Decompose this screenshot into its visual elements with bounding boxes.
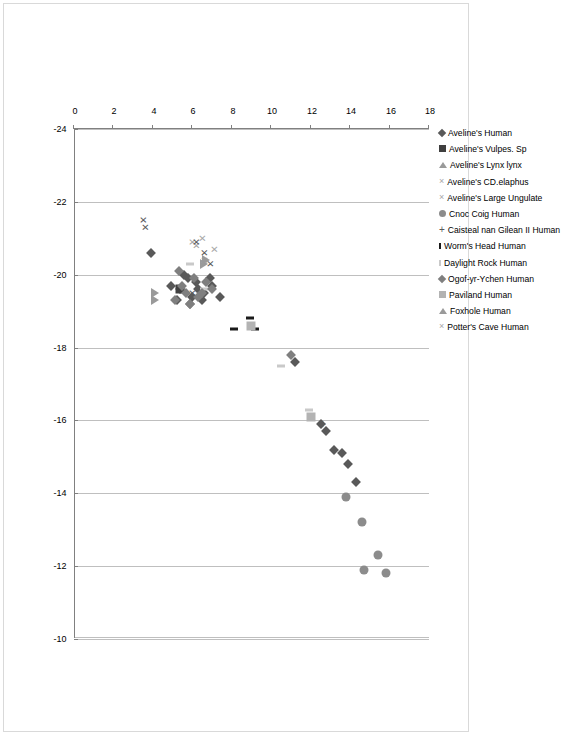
legend-item-label: Daylight Rock Human [444,257,527,267]
legend-marker-x-icon: × [439,323,444,330]
y-axis-tick [349,125,350,129]
legend-item[interactable]: ×Potter's Cave Human [439,322,529,332]
y-tick-label: 10 [263,106,281,116]
x-axis-tick [74,274,78,275]
legend-marker-square-dark-icon [439,145,446,152]
legend-item[interactable]: ×Aveline's Large Ungulate [439,192,542,202]
x-tick-label: -16 [50,415,70,425]
legend-marker-square-light-icon [439,291,446,298]
x-tick-label: -12 [50,561,70,571]
y-axis-tick [428,125,429,129]
data-point [165,280,175,290]
y-tick-label: 16 [381,106,399,116]
legend-marker-plus-icon: + [439,226,445,233]
x-axis-tick [74,493,78,494]
legend-item-label: Aveline's CD.elaphus [447,176,528,186]
data-point [341,492,350,501]
legend-marker-triangle-icon [439,162,447,168]
y-axis-tick [388,125,389,129]
legend-item-label: Foxhole Human [450,306,511,316]
gridline [75,566,429,567]
x-axis-tick [74,566,78,567]
legend-item[interactable]: Aveline's Human [439,128,512,138]
data-point [359,565,368,574]
x-axis-tick [74,420,78,421]
legend-item[interactable]: Paviland Human [439,290,512,300]
data-point [357,517,366,526]
data-point [373,550,382,559]
data-point: × [188,289,196,296]
y-axis-tick [270,125,271,129]
chart-legend: Aveline's HumanAveline's Vulpes. SpAveli… [437,128,565,638]
data-point [186,262,194,265]
data-point: × [139,216,147,223]
legend-marker-x-icon: × [439,177,444,184]
legend-item[interactable]: Worm's Head Human [439,241,526,251]
x-axis-tick [74,347,78,348]
x-tick-label: -18 [50,342,70,352]
legend-item-label: Cnoc Coig Human [449,209,519,219]
data-point: + [318,420,326,427]
data-point [150,295,158,305]
x-tick-label: -20 [50,269,70,279]
gridline [75,201,429,202]
legend-item-label: Caisteal nan Gilean II Human [447,225,559,235]
y-axis-tick [191,125,192,129]
y-tick-label: 0 [66,106,84,116]
legend-marker-dash-light-icon [439,259,441,265]
legend-item[interactable]: Aveline's Vulpes. Sp [439,144,527,154]
y-tick-label: 6 [184,106,202,116]
legend-marker-diamond-icon [437,128,445,136]
y-axis-tick [309,125,310,129]
y-tick-label: 2 [105,106,123,116]
legend-item[interactable]: Foxhole Human [439,306,511,316]
y-axis-tick [112,125,113,129]
y-axis-tick [230,125,231,129]
gridline [75,493,429,494]
y-tick-label: 14 [342,106,360,116]
y-tick-label: 18 [421,106,439,116]
data-point [277,364,285,367]
data-point [247,321,256,330]
plot-area: ×××××+×××××× [74,128,429,638]
x-tick-label: -14 [50,488,70,498]
data-point: × [206,260,214,267]
x-axis-tick [74,201,78,202]
x-axis-tick [74,639,78,640]
x-axis-tick [74,129,78,130]
chart-canvas: Aveline's HumanAveline's Vulpes. SpAveli… [27,76,447,662]
data-point: × [200,249,208,256]
legend-item-label: Ogof-yr-Ychen Human [448,273,534,283]
y-tick-label: 8 [223,106,241,116]
y-axis-tick [151,125,152,129]
legend-item-label: Aveline's Human [448,128,512,138]
legend-marker-x-icon: × [439,194,444,201]
data-point: × [192,238,200,245]
data-point [306,412,315,421]
gridline [75,274,429,275]
y-tick-label: 12 [302,106,320,116]
legend-item[interactable]: Aveline's Lynx lynx [439,160,522,170]
legend-marker-dash-dark-icon [439,243,441,249]
data-point [245,316,253,319]
legend-item[interactable]: +Caisteal nan Gilean II Human [439,225,560,235]
data-point [304,408,312,411]
legend-item[interactable]: Cnoc Coig Human [439,209,519,219]
data-point [343,459,353,469]
legend-item-label: Potter's Cave Human [447,322,528,332]
gridline [75,639,429,640]
data-point [145,247,155,257]
legend-marker-circle-icon [439,210,446,217]
legend-item-label: Paviland Human [449,290,512,300]
legend-item-label: Aveline's Large Ungulate [447,192,542,202]
data-point [229,327,237,330]
gridline [75,420,429,421]
y-axis-tick [73,125,74,129]
legend-marker-diamond-light-icon [437,274,445,282]
legend-item[interactable]: Ogof-yr-Ychen Human [439,273,534,283]
x-tick-label: -10 [50,634,70,644]
legend-item[interactable]: ×Aveline's CD.elaphus [439,176,529,186]
legend-item[interactable]: Daylight Rock Human [439,257,527,267]
